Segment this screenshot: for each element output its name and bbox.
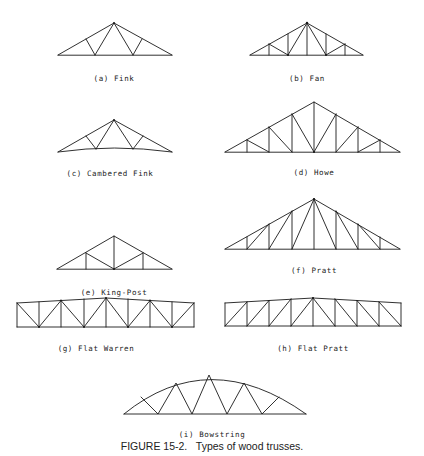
label-cambered-fink: (c) Cambered Fink: [67, 169, 154, 178]
label-howe: (d) Howe: [294, 168, 335, 177]
truss-flat-pratt: (h) Flat Pratt: [225, 297, 401, 353]
figure-caption: FIGURE 15-2. Types of wood trusses.: [121, 440, 303, 452]
wood-trusses-figure: (a) Fink (b) Fan (c) Cambered Fink: [0, 0, 424, 456]
label-fan: (b) Fan: [289, 74, 325, 83]
truss-fan: (b) Fan: [250, 22, 363, 83]
truss-flat-warren: (g) Flat Warren: [17, 297, 194, 353]
truss-king-post: (e) King-Post: [57, 236, 172, 297]
truss-pratt: (f) Pratt: [225, 198, 400, 275]
label-pratt: (f) Pratt: [291, 266, 337, 275]
label-flat-pratt: (h) Flat Pratt: [277, 344, 349, 353]
truss-fink: (a) Fink: [58, 22, 172, 83]
truss-cambered-fink: (c) Cambered Fink: [58, 119, 172, 178]
truss-howe: (d) Howe: [225, 102, 400, 177]
label-flat-warren: (g) Flat Warren: [58, 344, 135, 353]
label-bowstring: (i) Bowstring: [179, 430, 246, 439]
label-fink: (a) Fink: [94, 74, 135, 83]
label-king-post: (e) King-Post: [81, 288, 148, 297]
truss-bowstring: (i) Bowstring: [124, 375, 306, 439]
